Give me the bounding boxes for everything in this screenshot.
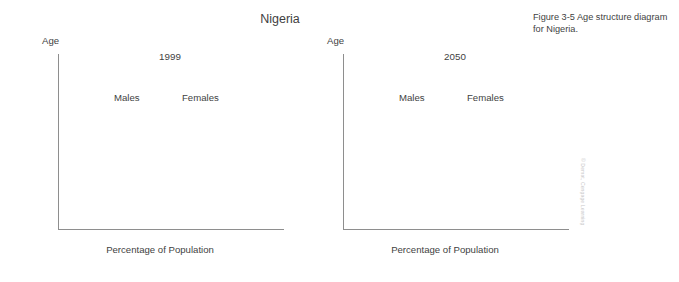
page-title: Nigeria [0, 12, 560, 26]
plot-area [58, 54, 284, 230]
x-axis-title: Percentage of Population [295, 244, 595, 255]
chart-panel-2050: Age 2050 Males Females Percentage of Pop… [295, 30, 595, 275]
y-axis-title: Age [327, 35, 344, 46]
bar-group [58, 54, 284, 230]
plot-area [343, 54, 569, 230]
y-axis-line [343, 54, 344, 230]
x-axis-line [343, 229, 569, 230]
x-axis-title: Percentage of Population [10, 244, 310, 255]
chart-panel-1999: Age 1999 Males Females Percentage of Pop… [10, 30, 310, 275]
y-axis-title: Age [42, 35, 59, 46]
y-axis-line [58, 54, 59, 230]
x-axis-line [58, 229, 284, 230]
bar-group [343, 54, 569, 230]
figure-root: Nigeria Figure 3-5 Age structure diagram… [0, 0, 679, 282]
